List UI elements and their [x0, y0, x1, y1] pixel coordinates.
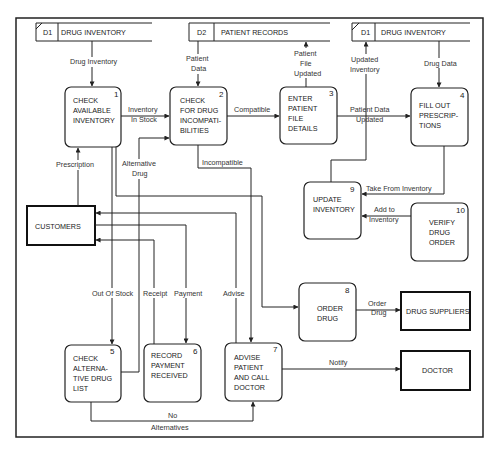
- flow-label: Inventory: [128, 105, 158, 114]
- process-1-check-available-inventory[interactable]: 1 CHECK AVAILABLE INVENTORY: [65, 87, 121, 147]
- process-label-line: DRUG: [429, 228, 451, 237]
- store-corner-mark-icon: [352, 23, 359, 30]
- process-label-line: INVENTORY: [313, 205, 355, 214]
- process-8-order-drug[interactable]: 8 ORDER DRUG: [299, 283, 356, 341]
- flow-label: Take From Inventory: [366, 184, 432, 193]
- flow-label: Add to: [374, 205, 395, 214]
- flow-label: No: [168, 411, 177, 420]
- process-label-line: CHECK: [73, 96, 98, 105]
- process-label-line: LIST: [73, 384, 89, 393]
- process-label-line: AND CALL: [234, 373, 269, 382]
- process-label-line: RECEIVED: [151, 371, 188, 380]
- process-number: 9: [350, 185, 355, 194]
- entity-label: DOCTOR: [422, 366, 453, 375]
- process-2-check-drug-incompatibilities[interactable]: 2 CHECK FOR DRUG INCOMPATI- BILITIES: [170, 87, 227, 145]
- flow-label: Patient: [186, 54, 208, 63]
- process-label-line: BILITIES: [180, 126, 209, 135]
- flow-label: Alternative: [122, 159, 156, 168]
- flow-label: Patient: [294, 49, 316, 58]
- process-3-enter-patient-file-details[interactable]: 3 ENTER PATIENT FILE DETAILS: [280, 87, 337, 144]
- store-id: D1: [361, 28, 370, 37]
- process-number: 1: [114, 90, 119, 99]
- process-4-fill-out-prescriptions[interactable]: 4 FILL OUT PRESCRIP- TIONS: [411, 88, 468, 146]
- flow-prescription: Prescription: [55, 148, 101, 206]
- store-label: PATIENT RECORDS: [221, 28, 288, 37]
- process-number: 10: [456, 206, 465, 215]
- process-9-update-inventory[interactable]: 9 UPDATE INVENTORY: [304, 182, 361, 239]
- flow-label: Drug Inventory: [70, 57, 118, 66]
- process-label-line: ENTER: [288, 94, 312, 103]
- data-flow-diagram: D1 DRUG INVENTORY D2 PATIENT RECORDS D1 …: [0, 0, 495, 452]
- process-label-line: DETAILS: [288, 124, 318, 133]
- flow-label: Updated: [294, 69, 321, 78]
- data-store-d1-right[interactable]: D1 DRUG INVENTORY: [352, 23, 470, 41]
- flow-incompatible: Incompatible: [198, 145, 251, 342]
- process-number: 3: [329, 89, 334, 98]
- flow-label: Incompatible: [202, 158, 243, 167]
- flow-label: Patient Data: [350, 105, 390, 114]
- process-label-line: VERIFY: [429, 218, 455, 227]
- process-label-line: PAYMENT: [151, 361, 185, 370]
- process-number: 2: [219, 90, 224, 99]
- flow-label: Out Of Stock: [92, 289, 134, 298]
- process-5-check-alternative-drug-list[interactable]: 5 CHECK ALTERNA- TIVE DRUG LIST: [65, 345, 121, 402]
- process-7-advise-patient-and-call-doctor[interactable]: 7 ADVISE PATIENT AND CALL DOCTOR: [225, 343, 282, 401]
- flow-compatible: Compatible: [227, 105, 279, 116]
- flow-label: Compatible: [234, 105, 270, 114]
- flow-label: Advise: [223, 289, 245, 298]
- store-label: DRUG INVENTORY: [381, 28, 446, 37]
- flow-label: Inventory: [369, 215, 399, 224]
- process-number: 4: [460, 91, 465, 100]
- flow-patient-data-updated: Patient Data Updated: [337, 105, 410, 124]
- flow-label: Inventory: [350, 65, 380, 74]
- process-label-line: TIVE DRUG: [73, 374, 113, 383]
- process-label-line: CHECK: [73, 354, 98, 363]
- flow-label: Payment: [174, 289, 202, 298]
- flow-label: File: [300, 59, 312, 68]
- process-label-line: INVENTORY: [73, 116, 115, 125]
- process-number: 6: [193, 347, 198, 356]
- process-number: 7: [273, 345, 278, 354]
- process-label-line: PATIENT: [288, 104, 318, 113]
- flow-inventory-in-stock: Inventory In Stock: [121, 105, 169, 124]
- flow-drug-data: Drug Data: [422, 41, 458, 87]
- store-label: DRUG INVENTORY: [61, 28, 126, 37]
- store-corner-mark-icon: [36, 23, 42, 29]
- external-entity-drug-suppliers[interactable]: DRUG SUPPLIERS: [401, 292, 470, 330]
- flow-notify: Notify: [282, 358, 400, 369]
- process-6-record-payment-received[interactable]: 6 RECORD PAYMENT RECEIVED: [144, 344, 201, 402]
- process-label-line: ORDER: [429, 238, 455, 247]
- flow-label: Data: [191, 64, 206, 73]
- flow-label: Drug Data: [424, 59, 457, 68]
- process-label-line: FOR DRUG: [180, 106, 219, 115]
- process-label-line: ALTERNA-: [73, 364, 109, 373]
- external-entity-doctor[interactable]: DOCTOR: [401, 351, 470, 390]
- entity-label: CUSTOMERS: [35, 222, 81, 231]
- flow-alternative-drug: Alternative Drug: [120, 138, 169, 372]
- process-label-line: DOCTOR: [234, 383, 265, 392]
- process-label-line: AVAILABLE: [73, 106, 111, 115]
- process-label-line: ADVISE: [234, 353, 261, 362]
- flow-patient-file-updated: Patient File Updated: [292, 42, 322, 87]
- process-label-line: ORDER: [317, 304, 343, 313]
- flow-label: Order: [368, 299, 387, 308]
- data-store-d1-left[interactable]: D1 DRUG INVENTORY: [36, 23, 152, 41]
- process-label-line: TIONS: [419, 121, 441, 130]
- process-number: 8: [345, 286, 350, 295]
- flow-label: Notify: [329, 358, 348, 367]
- external-entity-customers[interactable]: CUSTOMERS: [27, 206, 95, 245]
- process-label-line: PRESCRIP-: [419, 111, 459, 120]
- flow-label: Updated: [351, 55, 378, 64]
- flow-add-to-inventory: Add to Inventory: [362, 205, 411, 224]
- flow-label: Drug: [371, 308, 387, 317]
- flow-label: In Stock: [131, 115, 157, 124]
- process-label-line: RECORD: [151, 351, 182, 360]
- data-store-d2[interactable]: D2 PATIENT RECORDS: [189, 23, 330, 41]
- process-label-line: FILL OUT: [419, 101, 451, 110]
- process-10-verify-drug-order[interactable]: 10 VERIFY DRUG ORDER: [411, 203, 468, 261]
- store-id: D1: [43, 28, 52, 37]
- store-id: D2: [197, 28, 206, 37]
- flow-take-from-inventory: Take From Inventory: [362, 146, 444, 194]
- flow-patient-data: Patient Data: [184, 41, 212, 86]
- process-label-line: INCOMPATI-: [180, 116, 222, 125]
